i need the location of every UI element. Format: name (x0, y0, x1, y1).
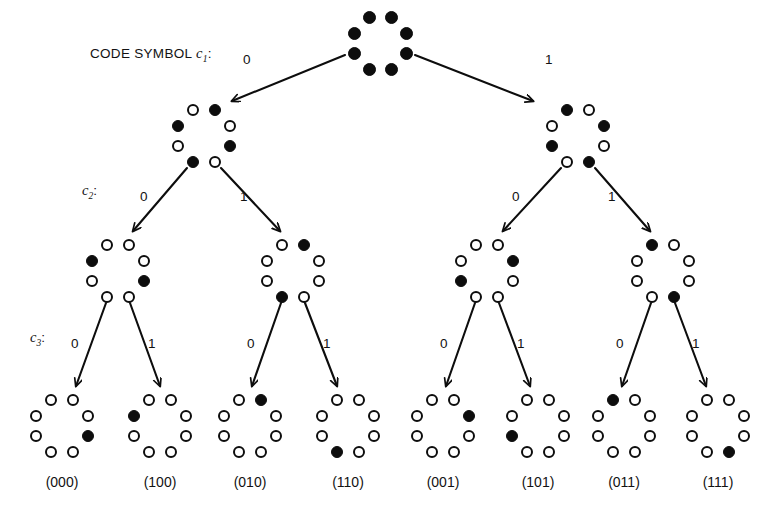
dot-right-lower-open (683, 275, 695, 287)
dot-right-upper-open (683, 255, 695, 267)
dot-top-right-open (723, 394, 735, 406)
dot-bottom-right-open (492, 291, 504, 303)
dot-left-lower-open (261, 275, 273, 287)
dot-right-lower-open (644, 430, 656, 442)
dot-top-right-open (629, 394, 641, 406)
dot-left-lower-open (592, 430, 604, 442)
dot-top-left-filled (561, 104, 573, 116)
dot-right-upper-open (738, 410, 750, 422)
dot-top-right-open (492, 239, 504, 251)
dot-top-left-filled (607, 394, 619, 406)
dot-top-right-open (668, 239, 680, 251)
branch-label-l3-1-bit-1: 1 (148, 337, 156, 351)
code-symbol-variable-c2: c2 (82, 182, 93, 198)
dot-right-upper-filled (598, 120, 610, 132)
branch-label-l3-5-bit-1: 1 (517, 337, 525, 351)
dot-right-lower-open (558, 430, 570, 442)
dot-left-upper-open (546, 120, 558, 132)
dot-right-upper-open (224, 120, 236, 132)
edge-level1-0-to-level2-1 (221, 168, 280, 231)
code-symbol-prefix: CODE SYMBOL (90, 46, 196, 61)
branch-label-l3-2-bit-0: 0 (247, 337, 255, 351)
dot-right-upper-open (313, 255, 325, 267)
code-symbol-variable-c1: c1 (196, 45, 208, 61)
branch-label-l3-3-bit-1: 1 (323, 337, 331, 351)
dot-bottom-right-open (209, 156, 221, 168)
dot-bottom-right-open (123, 291, 135, 303)
dot-left-lower-open (411, 430, 423, 442)
dot-bottom-left-open (233, 446, 245, 458)
dot-left-upper-open (30, 410, 42, 422)
dot-left-lower-open (172, 140, 184, 152)
dot-bottom-right-open (448, 446, 460, 458)
dot-top-left-open (426, 394, 438, 406)
dot-left-lower-filled (455, 275, 467, 287)
dot-top-left-open (521, 394, 533, 406)
dot-left-lower-open (30, 430, 42, 442)
dot-top-right-filled (385, 11, 398, 24)
dot-bottom-left-filled (187, 156, 199, 168)
dot-bottom-right-filled (583, 156, 595, 168)
dot-left-lower-filled (546, 140, 558, 152)
dot-left-upper-open (218, 410, 230, 422)
dot-left-upper-open (316, 410, 328, 422)
branch-label-l1-0-bit-0: 0 (243, 53, 251, 67)
dot-right-upper-open (270, 410, 282, 422)
dot-top-right-open (583, 104, 595, 116)
dot-bottom-left-open (470, 291, 482, 303)
dot-right-lower-open (598, 140, 610, 152)
dot-top-right-open (353, 394, 365, 406)
dot-bottom-right-open (165, 446, 177, 458)
dot-bottom-left-filled (276, 291, 288, 303)
edge-level2-1-to-leaf-010 (252, 303, 281, 386)
dot-left-upper-filled (86, 255, 98, 267)
branch-label-l1-1-bit-1: 1 (545, 53, 553, 67)
dot-left-upper-open (592, 410, 604, 422)
edge-root-to-level1-1 (415, 55, 533, 101)
branch-label-l3-7-bit-1: 1 (692, 337, 700, 351)
branch-label-l3-6-bit-0: 0 (616, 337, 624, 351)
dot-right-lower-open (270, 430, 282, 442)
dot-top-left-open (470, 239, 482, 251)
dot-right-lower-open (313, 275, 325, 287)
dot-left-upper-open (631, 255, 643, 267)
dot-bottom-left-filled (363, 63, 376, 76)
dot-bottom-right-filled (668, 291, 680, 303)
dot-left-lower-open (316, 430, 328, 442)
dot-left-upper-filled (128, 410, 140, 422)
dot-right-lower-filled (224, 140, 236, 152)
code-symbol-colon: : (208, 46, 212, 61)
node-leaf-011-code-label: (011) (608, 474, 640, 490)
dot-top-left-open (331, 394, 343, 406)
dot-right-lower-open (368, 430, 380, 442)
dot-right-upper-filled (463, 410, 475, 422)
dot-right-lower-open (507, 275, 519, 287)
dot-left-lower-open (86, 275, 98, 287)
dot-left-lower-filled (506, 430, 518, 442)
dot-right-upper-open (368, 410, 380, 422)
branch-label-l3-4-bit-0: 0 (440, 337, 448, 351)
dot-right-upper-filled (400, 27, 413, 40)
dot-left-lower-open (631, 275, 643, 287)
dot-bottom-left-open (426, 446, 438, 458)
code-symbol-c2-colon: : (93, 183, 97, 198)
dot-left-upper-open (455, 255, 467, 267)
dot-right-lower-filled (400, 47, 413, 60)
branch-label-l2-1-bit-1: 1 (240, 190, 248, 204)
dot-right-lower-open (738, 430, 750, 442)
dot-top-left-open (701, 394, 713, 406)
code-symbol-c2-label: c2: (82, 183, 97, 201)
edge-level2-2-to-leaf-101 (499, 303, 530, 386)
dot-right-upper-filled (507, 255, 519, 267)
dot-left-lower-open (128, 430, 140, 442)
dot-top-right-filled (255, 394, 267, 406)
dot-left-upper-open (261, 255, 273, 267)
dot-top-left-filled (646, 239, 658, 251)
dot-right-lower-open (463, 430, 475, 442)
dot-right-upper-open (82, 410, 94, 422)
dot-bottom-right-filled (723, 446, 735, 458)
dot-left-lower-open (218, 430, 230, 442)
dot-right-lower-open (180, 430, 192, 442)
dot-bottom-right-open (353, 446, 365, 458)
branch-label-l2-3-bit-1: 1 (608, 190, 616, 204)
